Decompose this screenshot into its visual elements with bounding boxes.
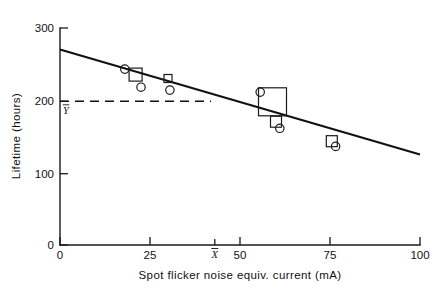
x-tick-label-75: 75	[324, 249, 337, 261]
x-axis-title: Spot flicker noise equiv. current (mA)	[139, 269, 342, 281]
x-tick-label-50: 50	[234, 249, 247, 261]
axes-group	[60, 28, 420, 245]
x-tick-label-25: 25	[144, 249, 157, 261]
y-tick-label-300: 300	[35, 22, 54, 34]
x-tick-label-0: 0	[57, 249, 63, 261]
circle-marker-3	[166, 86, 174, 94]
x-tick-marks	[60, 237, 420, 245]
circle-marker-4	[256, 88, 264, 96]
x-tick-label-100: 100	[410, 249, 429, 261]
chart-canvas: 300 200 100 0 0 25 50 75 100 X Y	[0, 0, 444, 297]
y-axis-title: Lifetime (hours)	[10, 93, 22, 179]
x-mean-annotation: X	[211, 249, 219, 261]
circle-marker-5	[276, 124, 284, 132]
y-mean-annotation: Y	[63, 105, 70, 116]
y-tick-label-0: 0	[48, 239, 54, 251]
y-tick-label-200: 200	[35, 95, 54, 107]
circle-marker-2	[137, 83, 145, 91]
y-tick-marks	[60, 28, 68, 245]
square-markers-group	[129, 68, 337, 147]
y-tick-label-100: 100	[35, 168, 54, 180]
chart-figure: 300 200 100 0 0 25 50 75 100 X Y	[0, 0, 444, 297]
y-mean-label: Y	[63, 105, 70, 116]
x-mean-label: X	[211, 249, 219, 260]
